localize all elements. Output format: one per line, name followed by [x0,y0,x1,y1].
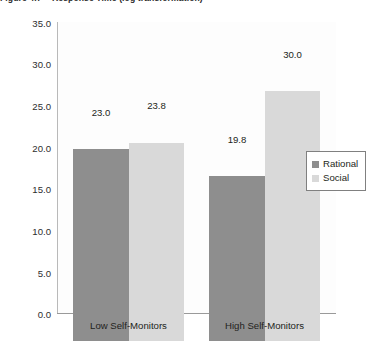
bar-high-rational[interactable] [209,176,265,341]
legend-item-rational[interactable]: Rational [312,157,358,171]
y-tick-label: 5.0 [12,269,51,279]
y-tick-label: 35.0 [12,19,51,29]
legend-item-social[interactable]: Social [312,171,358,185]
x-tick-label-low-self-monitors: Low Self-Monitors [73,320,184,331]
chart-legend: Rational Social [306,151,366,191]
y-tick-label: 20.0 [12,144,51,154]
y-axis-line [57,22,58,314]
bar-value-label-high-social: 30.0 [265,50,320,60]
bar-high-social[interactable] [265,91,320,341]
bar-value-label-low-social: 23.8 [129,101,184,111]
bar-value-label-low-rational: 23.0 [73,108,129,118]
legend-label: Rational [323,159,358,169]
x-tick-label-high-self-monitors: High Self-Monitors [209,320,320,331]
legend-label: Social [323,173,349,183]
bar-group-high-self-monitors [209,49,320,341]
y-tick-label: 25.0 [12,102,51,112]
figure-number: Figure 4.7 [0,0,52,3]
legend-swatch-icon [312,175,319,182]
y-tick-label: 10.0 [12,227,51,237]
figure-title-text: Response Time (log transformation) [52,0,203,3]
figure-title: Figure 4.7Response Time (log transformat… [0,0,386,5]
y-tick-label: 0.0 [12,310,51,320]
bar-value-label-high-rational: 19.8 [209,135,265,145]
legend-swatch-icon [312,161,319,168]
bar-low-rational[interactable] [73,149,129,341]
bar-group-low-self-monitors [73,49,184,341]
y-tick-label: 15.0 [12,185,51,195]
y-tick-label: 30.0 [12,60,51,70]
bar-low-social[interactable] [129,143,184,341]
